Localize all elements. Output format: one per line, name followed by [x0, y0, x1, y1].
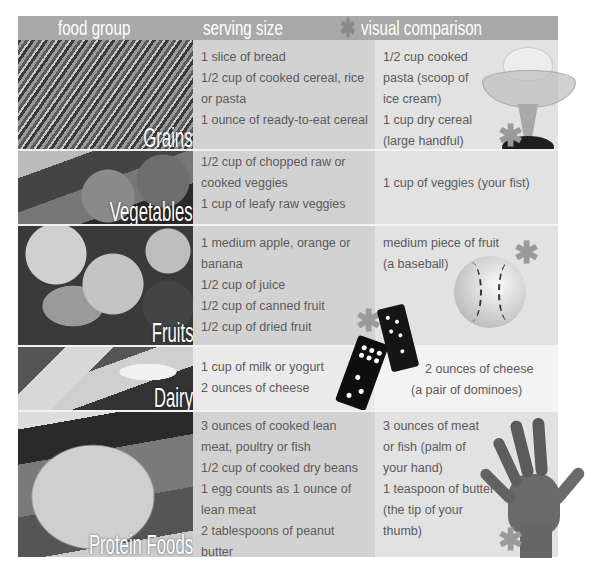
row-vegetables: Vegetables 1/2 cup of chopped raw or coo… — [18, 151, 558, 224]
visual-line: 2 ounces of cheese — [425, 359, 552, 380]
dominoes-icon — [340, 306, 430, 416]
asterisk-icon: ✱ — [498, 522, 523, 557]
serving-cell: 3 ounces of cooked lean meat, poultry or… — [193, 412, 375, 557]
serving-line: 1/2 cup of cooked cereal, rice — [201, 68, 369, 89]
visual-line: (a pair of dominoes) — [411, 380, 552, 401]
serving-line: 1 ounce of ready-to-eat cereal — [201, 110, 369, 131]
food-group-label: Grains — [144, 123, 193, 150]
serving-line: 1 medium apple, orange or — [201, 233, 369, 254]
asterisk-icon: ✱ — [498, 118, 523, 153]
food-group-label: Dairy — [154, 383, 193, 410]
serving-line: 1/2 cup of cooked dry beans — [201, 458, 369, 479]
serving-line: 1 egg counts as 1 ounce of — [201, 479, 369, 500]
header-visual-comparison: visual comparison — [361, 16, 482, 40]
vegetables-photo: Vegetables — [18, 151, 193, 224]
protein-foods-photo: Protein Foods — [18, 412, 193, 557]
food-group-label: Protein Foods — [89, 530, 193, 557]
dairy-photo: Dairy — [18, 347, 193, 410]
serving-cell: 1 slice of bread 1/2 cup of cooked cerea… — [193, 40, 375, 150]
food-group-label: Fruits — [151, 318, 193, 345]
serving-line: cooked veggies — [201, 173, 369, 194]
fruits-photo: Fruits — [18, 226, 193, 345]
serving-line: meat, poultry or fish — [201, 437, 369, 458]
serving-cell: 1/2 cup of chopped raw or cooked veggies… — [193, 151, 375, 224]
visual-line: 1 cup of veggies (your fist) — [383, 173, 552, 194]
serving-line: lean meat — [201, 500, 369, 521]
serving-line: 1/2 cup of juice — [201, 275, 369, 296]
serving-line: 1 cup of leafy raw veggies — [201, 194, 369, 215]
grains-photo: Grains — [18, 40, 193, 150]
visual-cell: 1 cup of veggies (your fist) — [375, 151, 558, 224]
hand-icon — [478, 414, 588, 556]
serving-line: 1/2 cup of chopped raw or — [201, 152, 369, 173]
row-protein-foods: Protein Foods 3 ounces of cooked lean me… — [18, 412, 558, 557]
asterisk-icon: ✱ — [514, 235, 539, 270]
serving-line: 2 tablespoons of peanut butter — [201, 521, 369, 563]
serving-line: banana — [201, 254, 369, 275]
header-serving-size: serving size — [203, 16, 283, 40]
row-grains: Grains 1 slice of bread 1/2 cup of cooke… — [18, 40, 558, 150]
table-header: food group serving size ✱ visual compari… — [18, 16, 558, 40]
asterisk-icon: ✱ — [340, 16, 356, 40]
header-food-group: food group — [58, 16, 130, 40]
serving-line: 3 ounces of cooked lean — [201, 416, 369, 437]
food-group-label: Vegetables — [110, 197, 193, 224]
serving-line: or pasta — [201, 89, 369, 110]
serving-line: 1 slice of bread — [201, 47, 369, 68]
row-dairy: Dairy 1 cup of milk or yogurt 2 ounces o… — [18, 347, 558, 410]
